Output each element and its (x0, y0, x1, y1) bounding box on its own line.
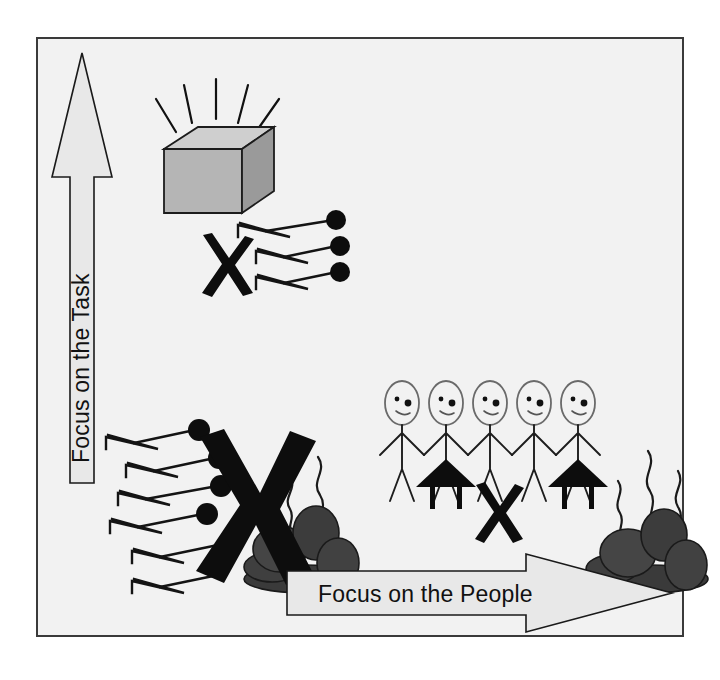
diagram-canvas: Focus on the Task (0, 0, 720, 680)
pin-icon (256, 262, 350, 289)
horizontal-axis-label: Focus on the People (318, 581, 533, 608)
x-glyph (475, 482, 524, 543)
tent-icon (416, 459, 476, 509)
x-mark-small (196, 231, 258, 299)
cube-shine-rays (156, 79, 279, 132)
x-glyph (202, 233, 254, 297)
diagram-frame: Focus on the Task (36, 37, 684, 637)
vertical-axis-label: Focus on the Task (68, 273, 95, 463)
x-mark-small (470, 481, 528, 545)
pin-icon (256, 236, 350, 263)
